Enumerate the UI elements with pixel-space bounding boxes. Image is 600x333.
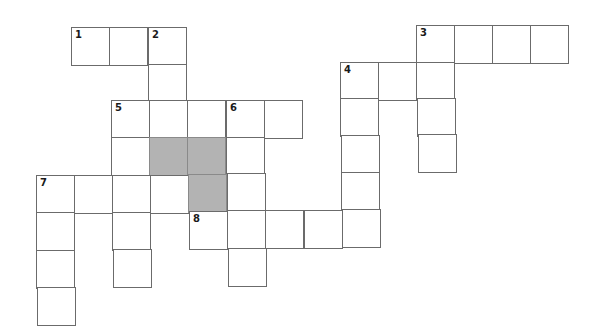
clue-number: 6 bbox=[230, 103, 237, 113]
clue-number: 7 bbox=[40, 178, 47, 188]
crossword-cell[interactable] bbox=[111, 137, 150, 176]
clue-number: 8 bbox=[193, 214, 200, 224]
crossword-cell[interactable] bbox=[148, 64, 187, 103]
crossword-cell[interactable] bbox=[228, 248, 267, 287]
clue-number: 3 bbox=[420, 28, 427, 38]
shaded-cell bbox=[187, 137, 226, 176]
clue-number: 2 bbox=[152, 30, 159, 40]
crossword-cell[interactable] bbox=[416, 62, 455, 101]
crossword-cell[interactable] bbox=[264, 100, 303, 139]
crossword-cell[interactable]: 8 bbox=[189, 211, 228, 250]
crossword-cell[interactable] bbox=[112, 175, 151, 214]
clue-number: 5 bbox=[115, 103, 122, 113]
shaded-cell bbox=[188, 174, 227, 213]
crossword-cell[interactable]: 6 bbox=[226, 100, 265, 139]
crossword-cell[interactable] bbox=[187, 100, 226, 139]
crossword-cell[interactable] bbox=[113, 249, 152, 288]
crossword-cell[interactable] bbox=[150, 175, 189, 214]
crossword-cell[interactable]: 2 bbox=[148, 27, 187, 66]
crossword-cell[interactable] bbox=[378, 62, 417, 101]
crossword-cell[interactable] bbox=[74, 175, 113, 214]
crossword-cell[interactable] bbox=[227, 173, 266, 212]
crossword-cell[interactable] bbox=[340, 98, 379, 137]
crossword-cell[interactable] bbox=[109, 27, 148, 66]
crossword-cell[interactable]: 4 bbox=[340, 62, 379, 101]
crossword-cell[interactable]: 7 bbox=[36, 175, 75, 214]
crossword-cell[interactable] bbox=[304, 210, 343, 249]
crossword-cell[interactable]: 1 bbox=[71, 27, 110, 66]
crossword-cell[interactable] bbox=[342, 209, 381, 248]
crossword-cell[interactable] bbox=[417, 98, 456, 137]
crossword-grid: 12345678 bbox=[0, 0, 600, 333]
crossword-cell[interactable]: 5 bbox=[111, 100, 150, 139]
crossword-cell[interactable] bbox=[227, 210, 266, 249]
crossword-cell[interactable] bbox=[492, 25, 531, 64]
crossword-cell[interactable] bbox=[149, 100, 188, 139]
crossword-cell[interactable] bbox=[37, 287, 76, 326]
clue-number: 4 bbox=[344, 65, 351, 75]
crossword-cell[interactable] bbox=[530, 25, 569, 64]
crossword-cell[interactable] bbox=[265, 210, 304, 249]
crossword-cell[interactable] bbox=[36, 250, 75, 289]
crossword-cell[interactable] bbox=[226, 137, 265, 176]
crossword-cell[interactable]: 3 bbox=[416, 25, 455, 64]
crossword-cell[interactable] bbox=[341, 172, 380, 211]
crossword-cell[interactable] bbox=[36, 212, 75, 251]
crossword-cell[interactable] bbox=[418, 134, 457, 173]
crossword-cell[interactable] bbox=[341, 135, 380, 174]
clue-number: 1 bbox=[75, 30, 82, 40]
crossword-cell[interactable] bbox=[112, 212, 151, 251]
crossword-cell[interactable] bbox=[454, 25, 493, 64]
shaded-cell bbox=[149, 137, 188, 176]
